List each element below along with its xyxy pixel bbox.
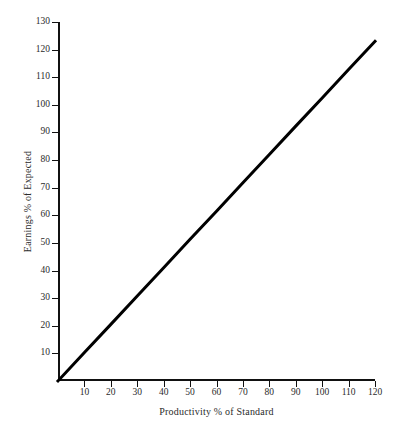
- x-tick-label: 120: [368, 388, 382, 398]
- x-tick-label: 20: [106, 388, 116, 398]
- series-line-earnings-vs-productivity: [58, 41, 375, 381]
- x-tick-label: 70: [238, 388, 248, 398]
- chart-figure: 102030405060708090100110120130 102030405…: [0, 0, 405, 438]
- plot-area: 102030405060708090100110120130 102030405…: [58, 22, 375, 381]
- x-tick-label: 60: [212, 388, 222, 398]
- y-axis-title: Earnings % of Expected: [22, 22, 44, 381]
- x-tick-label: 100: [315, 388, 329, 398]
- x-tick-label: 40: [159, 388, 169, 398]
- x-axis-title: Productivity % of Standard: [58, 406, 375, 417]
- x-tick-label: 90: [291, 388, 301, 398]
- series-line-layer: [58, 22, 375, 381]
- x-tick-label: 50: [185, 388, 195, 398]
- x-tick-label: 110: [342, 388, 356, 398]
- x-tick-label: 10: [80, 388, 90, 398]
- x-tick-label: 30: [133, 388, 143, 398]
- x-tick-label: 80: [265, 388, 275, 398]
